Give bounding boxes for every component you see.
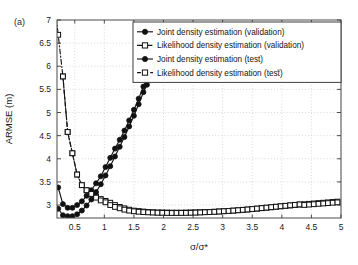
x-tick-label-8: 4.5 — [306, 222, 318, 232]
series-marker-2 — [141, 90, 146, 95]
series-marker-0 — [98, 174, 103, 179]
legend-label-1[interactable]: Likelihood density estimation (validatio… — [157, 41, 304, 50]
series-marker-3 — [212, 209, 217, 214]
y-tick-label-3: 4.5 — [39, 131, 51, 141]
series-marker-3 — [236, 208, 241, 213]
x-tick-label-6: 3.5 — [246, 222, 258, 232]
series-marker-3 — [184, 210, 189, 215]
y-tick-label-4: 5 — [46, 108, 51, 118]
series-marker-3 — [198, 210, 203, 215]
series-marker-2 — [127, 124, 132, 129]
series-marker-2 — [89, 197, 94, 202]
y-tick-label-7: 6.5 — [39, 38, 51, 48]
legend-marker-1 — [142, 43, 147, 48]
series-marker-2 — [117, 144, 122, 149]
series-marker-3 — [217, 209, 222, 214]
x-tick-label-4: 2.5 — [187, 222, 199, 232]
figure-container: (a) 0.511.522.533.544.55 33.544.555.566.… — [0, 0, 358, 265]
x-tick-label-0: 0.5 — [69, 222, 81, 232]
series-marker-3 — [330, 200, 335, 205]
series-marker-3 — [79, 183, 84, 188]
series-marker-3 — [274, 204, 279, 209]
series-marker-3 — [255, 206, 260, 211]
series-marker-3 — [146, 210, 151, 215]
series-marker-2 — [84, 203, 89, 208]
y-tick-label-5: 5.5 — [39, 84, 51, 94]
legend-label-0[interactable]: Joint density estimation (validation) — [157, 28, 285, 37]
series-marker-3 — [150, 210, 155, 215]
y-tick-label-6: 6 — [46, 61, 51, 71]
series-marker-3 — [203, 210, 208, 215]
series-marker-3 — [335, 200, 340, 205]
series-marker-0 — [60, 202, 65, 207]
series-marker-0 — [75, 203, 80, 208]
series-marker-0 — [117, 137, 122, 142]
y-tick-label-2: 4 — [46, 154, 51, 164]
series-marker-2 — [144, 82, 149, 87]
series-marker-3 — [193, 210, 198, 215]
y-tick-label-8: 7 — [46, 15, 51, 25]
legend-label-2[interactable]: Joint density estimation (test) — [157, 55, 263, 64]
x-axis-title: σ/σ* — [190, 241, 208, 252]
series-marker-3 — [169, 211, 174, 216]
series-marker-3 — [165, 211, 170, 216]
series-marker-3 — [292, 202, 297, 207]
series-marker-3 — [75, 172, 80, 177]
series-marker-2 — [94, 190, 99, 195]
series-marker-0 — [94, 181, 99, 186]
series-marker-3 — [108, 203, 113, 208]
series-marker-0 — [84, 193, 89, 198]
series-marker-3 — [226, 209, 231, 214]
series-marker-3 — [221, 209, 226, 214]
series-marker-2 — [75, 212, 80, 217]
series-marker-3 — [132, 209, 137, 214]
series-marker-3 — [283, 203, 288, 208]
series-marker-3 — [122, 207, 127, 212]
series-marker-3 — [316, 201, 321, 206]
series-marker-0 — [112, 146, 117, 151]
x-tick-label-2: 1.5 — [128, 222, 140, 232]
series-marker-3 — [70, 151, 75, 156]
x-tick-label-9: 5 — [339, 222, 344, 232]
series-marker-0 — [79, 199, 84, 204]
x-tick-label-5: 3 — [220, 222, 225, 232]
series-marker-3 — [103, 200, 108, 205]
legend-label-3[interactable]: Likelihood density estimation (test) — [157, 69, 283, 78]
series-marker-0 — [103, 165, 108, 170]
series-marker-3 — [264, 205, 269, 210]
series-marker-2 — [103, 173, 108, 178]
series-marker-3 — [207, 210, 212, 215]
series-marker-3 — [98, 198, 103, 203]
chart-svg: (a) 0.511.522.533.544.55 33.544.555.566.… — [0, 0, 358, 265]
series-marker-3 — [297, 202, 302, 207]
series-marker-3 — [155, 210, 160, 215]
series-marker-2 — [136, 102, 141, 107]
series-marker-3 — [240, 207, 245, 212]
y-axis-title: ARMSE (m) — [3, 94, 14, 145]
series-marker-3 — [259, 206, 264, 211]
series-marker-0 — [108, 155, 113, 160]
series-marker-3 — [160, 210, 165, 215]
series-marker-3 — [326, 201, 331, 206]
legend-marker-2 — [142, 56, 147, 61]
series-marker-3 — [84, 188, 89, 193]
series-marker-2 — [122, 135, 127, 140]
series-marker-3 — [113, 205, 118, 210]
series-marker-3 — [94, 195, 99, 200]
series-marker-2 — [60, 213, 65, 218]
panel-label: (a) — [14, 17, 25, 27]
series-marker-3 — [127, 208, 132, 213]
scan-speck — [277, 69, 280, 71]
series-marker-3 — [117, 206, 122, 211]
series-marker-2 — [108, 164, 113, 169]
series-marker-3 — [188, 210, 193, 215]
series-marker-3 — [250, 207, 255, 212]
series-marker-3 — [141, 210, 146, 215]
series-marker-2 — [98, 182, 103, 187]
series-marker-2 — [112, 154, 117, 159]
series-marker-2 — [131, 113, 136, 118]
series-marker-3 — [231, 208, 236, 213]
legend[interactable]: Joint density estimation (validation)Lik… — [133, 22, 341, 82]
series-marker-2 — [79, 208, 84, 213]
series-marker-3 — [288, 203, 293, 208]
